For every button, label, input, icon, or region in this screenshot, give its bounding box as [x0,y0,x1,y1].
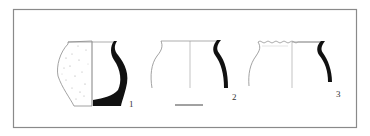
vessel-1-label: 1 [129,99,134,109]
vessel-2-section-profile [213,40,228,88]
vessel-3: 3 [249,41,341,99]
vessel-2: 2 [151,40,236,105]
vessel-1-exterior-outline [57,41,92,106]
vessel-2-exterior-outline [151,41,162,88]
vessel-3-label: 3 [336,89,341,99]
pottery-figure: 1 2 3 [0,0,370,136]
vessel-1-section-profile [93,41,127,106]
vessel-3-section-profile [317,41,332,82]
vessel-3-exterior-outline [249,42,260,86]
vessel-1: 1 [57,41,133,109]
vessel-2-label: 2 [232,92,237,102]
